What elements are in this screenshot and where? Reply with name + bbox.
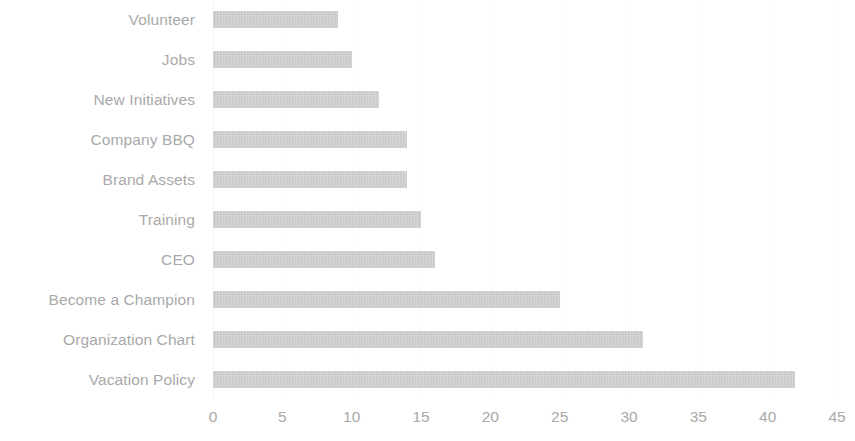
value-tick-label: 35 [668,408,728,426]
category-label: Become a Champion [0,280,195,320]
bar-row [213,80,837,120]
bar-row [213,0,837,40]
bar-row [213,40,837,80]
plot-area [213,0,837,400]
category-label: New Initiatives [0,80,195,120]
bar-row [213,360,837,400]
value-tick-label: 40 [738,408,798,426]
value-tick-label: 5 [252,408,312,426]
bar-row [213,160,837,200]
value-tick-label: 10 [322,408,382,426]
category-label: CEO [0,240,195,280]
bar[interactable] [213,251,435,268]
bar[interactable] [213,91,379,108]
category-label: Jobs [0,40,195,80]
bar[interactable] [213,11,338,28]
category-label: Vacation Policy [0,360,195,400]
category-label: Organization Chart [0,320,195,360]
value-tick-label: 20 [460,408,520,426]
bar[interactable] [213,331,643,348]
bar-row [213,280,837,320]
bar[interactable] [213,291,560,308]
gridline [837,0,838,400]
category-label: Training [0,200,195,240]
category-axis-labels: VolunteerJobsNew InitiativesCompany BBQB… [0,0,195,400]
value-tick-label: 0 [183,408,243,426]
category-label: Company BBQ [0,120,195,160]
category-label: Volunteer [0,0,195,40]
bar[interactable] [213,211,421,228]
value-tick-label: 25 [530,408,590,426]
category-label: Brand Assets [0,160,195,200]
horizontal-bar-chart: VolunteerJobsNew InitiativesCompany BBQB… [0,0,855,441]
value-tick-label: 15 [391,408,451,426]
bar[interactable] [213,171,407,188]
bar[interactable] [213,51,352,68]
value-tick-label: 30 [599,408,659,426]
value-axis-labels: 051015202530354045 [0,400,855,441]
value-tick-label: 45 [807,408,855,426]
bar-row [213,320,837,360]
bar-row [213,200,837,240]
bar-row [213,120,837,160]
bar[interactable] [213,371,795,388]
bar-row [213,240,837,280]
bar[interactable] [213,131,407,148]
